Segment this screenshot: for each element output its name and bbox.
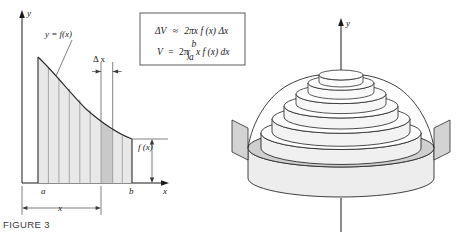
shell-7-top-face — [319, 70, 363, 80]
base-shell-right-flank — [434, 120, 450, 160]
base-shell-left-flank — [232, 120, 248, 160]
formula2-lower-limit: a — [189, 52, 194, 62]
formula-box-group: ΔV ≈ 2πx f (x) Δx V = 2π ∫ b a x f (x) d… — [140, 13, 245, 65]
curve-label: y = f(x) — [44, 29, 72, 39]
figure-3-illustration: y x — [0, 0, 456, 247]
formula2-v: V — [157, 47, 164, 57]
svg-text:V = 2π: V = 2π — [157, 47, 189, 57]
x-axis-label-left: x — [162, 186, 167, 196]
y-axis-label-left: y — [26, 8, 31, 18]
svg-text:ΔV ≈ 2πx f: ΔV ≈ 2πx f (x) Δx — [154, 26, 229, 37]
curve-label-leader — [56, 40, 72, 76]
formula1-approx: ≈ — [173, 26, 178, 36]
x-distance-label: x — [57, 203, 62, 213]
height-label: f (x) — [138, 142, 153, 152]
formula2-equals: = — [168, 47, 173, 57]
formula-line-1: ΔV ≈ 2πx f (x) Δx — [154, 26, 229, 37]
formula1-deltav: ΔV — [154, 26, 168, 36]
tick-label-a: a — [41, 186, 46, 196]
figure-3-container: y x — [0, 0, 456, 247]
right-panel-group: y — [232, 18, 450, 232]
area-under-curve-fill — [38, 57, 132, 183]
y-axis-label-right: y — [345, 18, 350, 28]
formula2-integrand: x f (x) dx — [195, 47, 230, 58]
delta-x-label: Δ x — [93, 54, 106, 64]
representative-strip — [101, 122, 113, 183]
figure-caption: FIGURE 3 — [3, 219, 50, 230]
y-axis-left — [19, 10, 25, 183]
tick-label-b: b — [129, 186, 134, 196]
formula1-expr: 2πx f (x) Δx — [184, 26, 229, 37]
